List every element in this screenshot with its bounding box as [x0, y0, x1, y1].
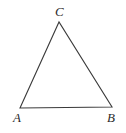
triangle-figure: C A B	[0, 0, 126, 133]
vertex-label-b: B	[107, 111, 115, 124]
vertex-label-c: C	[55, 5, 64, 18]
triangle-outline	[20, 22, 112, 108]
vertex-label-a: A	[13, 111, 21, 124]
